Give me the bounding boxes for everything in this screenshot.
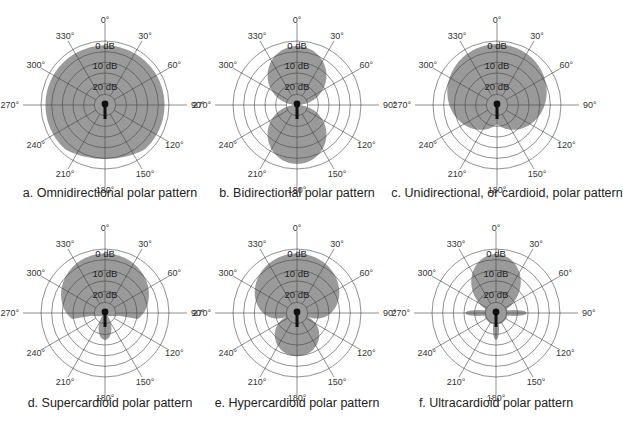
- db-label: 20 dB: [93, 81, 118, 92]
- angle-label: 300°: [26, 268, 45, 278]
- db-label: 10 dB: [93, 268, 118, 279]
- angle-label: 300°: [417, 268, 436, 278]
- angle-label: 30°: [330, 31, 344, 41]
- angle-label: 30°: [330, 239, 344, 249]
- angle-label: 150°: [136, 169, 155, 179]
- db-label: 10 dB: [485, 60, 510, 71]
- angle-label: 60°: [359, 268, 373, 278]
- grid-spoke: [505, 318, 560, 350]
- polar-diagram-f: 0°30°60°90°120°150°180°210°240°270°300°3…: [391, 223, 596, 403]
- angle-label: 120°: [557, 140, 576, 150]
- angle-label: 240°: [26, 348, 45, 358]
- angle-label: 210°: [56, 169, 75, 179]
- db-label: 20 dB: [285, 81, 310, 92]
- microphone-head-icon: [102, 309, 109, 316]
- angle-label: 30°: [530, 31, 544, 41]
- angle-label: 240°: [417, 348, 436, 358]
- grid-spoke: [432, 318, 487, 350]
- angle-label: 0°: [101, 223, 110, 233]
- grid-spoke: [501, 322, 533, 377]
- angle-label: 150°: [328, 169, 347, 179]
- angle-label: 300°: [218, 268, 237, 278]
- angle-label: 270°: [0, 308, 19, 318]
- angle-label: 210°: [248, 377, 267, 387]
- angle-label: 300°: [26, 60, 45, 70]
- db-label: 20 dB: [285, 289, 310, 300]
- angle-label: 30°: [138, 31, 152, 41]
- polar-diagram-b: 0°30°60°90°120°150°180°210°240°270°300°3…: [192, 15, 397, 195]
- angle-label: 120°: [165, 348, 184, 358]
- angle-label: 0°: [493, 15, 502, 25]
- angle-label: 300°: [218, 60, 237, 70]
- polar-diagram-d: 0°30°60°90°120°150°180°210°240°270°300°3…: [0, 223, 205, 403]
- caption-c: c. Unidirectional, or cardioid, polar pa…: [391, 186, 622, 200]
- db-label: 20 dB: [93, 289, 118, 300]
- angle-label: 60°: [559, 60, 573, 70]
- angle-label: 60°: [359, 60, 373, 70]
- angle-label: 240°: [218, 140, 237, 150]
- angle-label: 240°: [418, 140, 437, 150]
- angle-label: 150°: [136, 377, 155, 387]
- angle-label: 60°: [167, 60, 181, 70]
- db-label: 0 dB: [487, 40, 507, 51]
- angle-label: 120°: [165, 140, 184, 150]
- caption-d: d. Supercardioid polar pattern: [28, 396, 193, 410]
- caption-b: b. Bidirectional polar pattern: [219, 186, 375, 200]
- caption-f: f. Ultracardioid polar pattern: [419, 396, 573, 410]
- angle-label: 150°: [527, 377, 546, 387]
- angle-label: 330°: [448, 31, 467, 41]
- angle-label: 120°: [357, 348, 376, 358]
- db-label: 10 dB: [285, 60, 310, 71]
- angle-label: 330°: [56, 239, 75, 249]
- grid-spoke: [114, 318, 169, 350]
- angle-label: 90°: [582, 308, 596, 318]
- microphone-head-icon: [294, 101, 301, 108]
- angle-label: 240°: [26, 140, 45, 150]
- db-label: 0 dB: [486, 248, 506, 259]
- angle-label: 210°: [447, 377, 466, 387]
- angle-label: 60°: [558, 268, 572, 278]
- polar-diagram-a: 0°30°60°90°120°150°180°210°240°270°300°3…: [0, 15, 205, 195]
- angle-label: 0°: [293, 15, 302, 25]
- caption-a: a. Omnidirectional polar pattern: [23, 186, 197, 200]
- angle-label: 270°: [192, 100, 211, 110]
- grid-spoke: [459, 322, 491, 377]
- polar-diagram-c: 0°30°60°90°120°150°180°210°240°270°300°3…: [392, 15, 597, 195]
- angle-label: 0°: [492, 223, 501, 233]
- angle-label: 240°: [218, 348, 237, 358]
- angle-label: 30°: [529, 239, 543, 249]
- angle-label: 0°: [101, 15, 110, 25]
- angle-label: 210°: [448, 169, 467, 179]
- grid-spoke: [110, 322, 142, 377]
- angle-label: 150°: [528, 169, 547, 179]
- grid-spoke: [41, 318, 96, 350]
- angle-label: 270°: [0, 100, 19, 110]
- db-label: 20 dB: [484, 289, 509, 300]
- caption-e: e. Hypercardioid polar pattern: [215, 396, 380, 410]
- microphone-head-icon: [494, 101, 501, 108]
- db-label: 10 dB: [93, 60, 118, 71]
- db-label: 10 dB: [484, 268, 509, 279]
- angle-label: 330°: [248, 31, 267, 41]
- angle-label: 210°: [248, 169, 267, 179]
- angle-label: 0°: [293, 223, 302, 233]
- angle-label: 270°: [392, 100, 411, 110]
- db-label: 0 dB: [95, 248, 115, 259]
- microphone-head-icon: [102, 101, 109, 108]
- polar-diagram-e: 0°30°60°90°120°150°180°210°240°270°300°3…: [192, 223, 397, 403]
- microphone-head-icon: [294, 309, 301, 316]
- angle-label: 30°: [138, 239, 152, 249]
- angle-label: 330°: [248, 239, 267, 249]
- db-label: 0 dB: [95, 40, 115, 51]
- db-label: 0 dB: [287, 248, 307, 259]
- angle-label: 270°: [391, 308, 410, 318]
- db-label: 0 dB: [287, 40, 307, 51]
- angle-label: 330°: [56, 31, 75, 41]
- angle-label: 120°: [357, 140, 376, 150]
- angle-label: 60°: [167, 268, 181, 278]
- db-label: 20 dB: [485, 81, 510, 92]
- angle-label: 150°: [328, 377, 347, 387]
- db-label: 10 dB: [285, 268, 310, 279]
- angle-label: 120°: [556, 348, 575, 358]
